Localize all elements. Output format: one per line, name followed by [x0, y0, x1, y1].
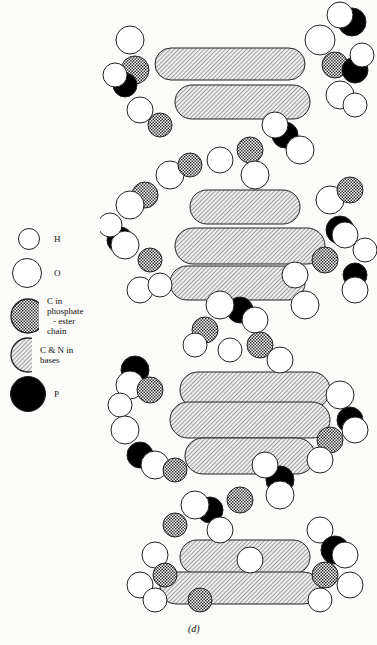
- legend-label: O: [54, 268, 61, 278]
- dna-space-filling-model: [100, 0, 377, 615]
- hydrogen-atom-icon: [18, 228, 40, 250]
- legend-item-carbon-nitrogen-bases: C & N in bases: [10, 337, 73, 373]
- legend-item-oxygen: O: [12, 258, 61, 288]
- legend-item-carbon-phosphate: C in phosphate - ester chain: [10, 296, 90, 336]
- legend-item-phosphorus: P: [10, 376, 59, 412]
- legend-item-hydrogen: H: [16, 228, 61, 250]
- legend-label-line2: - ester chain: [47, 316, 75, 336]
- phosphorus-atom-icon: [10, 376, 46, 412]
- legend-label: P: [54, 389, 59, 399]
- crosshatched-carbon-icon: [10, 298, 39, 334]
- legend-label: C in phosphate: [47, 296, 84, 316]
- hatched-base-icon: [10, 337, 32, 373]
- legend-label: C & N in bases: [40, 345, 74, 365]
- legend-label: H: [54, 234, 61, 244]
- figure-caption: (d): [188, 623, 200, 634]
- oxygen-atom-icon: [12, 258, 42, 288]
